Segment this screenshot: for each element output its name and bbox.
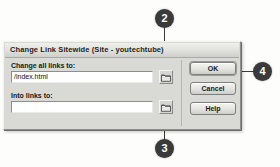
- into-links-label: Into links to:: [11, 92, 176, 99]
- callout-badge-4: 4: [253, 62, 272, 81]
- callout-badge-2: 2: [155, 9, 174, 28]
- change-all-links-input[interactable]: /index.html: [11, 71, 153, 83]
- change-all-links-label: Change all links to:: [11, 62, 176, 69]
- browse-folder-button-change-all-links[interactable]: [159, 70, 173, 84]
- button-column: OK Cancel Help: [190, 62, 236, 122]
- folder-icon: [161, 73, 171, 82]
- browse-folder-button-into-links[interactable]: [159, 100, 173, 114]
- scan-page-background: 2 3 4 Change Link Sitewide (Site - youte…: [0, 0, 280, 167]
- folder-icon: [161, 103, 171, 112]
- column-divider: [181, 60, 182, 126]
- change-all-links-row: /index.html: [11, 71, 176, 84]
- dialog-title: Change Link Sitewide (Site - youtechtube…: [10, 45, 164, 54]
- dialog-titlebar[interactable]: Change Link Sitewide (Site - youtechtube…: [5, 43, 239, 58]
- form-column: Change all links to: /index.html Into li…: [11, 62, 176, 122]
- ok-button[interactable]: OK: [190, 62, 236, 75]
- dialog-body: Change all links to: /index.html Into li…: [4, 58, 240, 129]
- callout-badge-3: 3: [155, 139, 174, 158]
- cancel-button[interactable]: Cancel: [190, 82, 236, 95]
- into-links-row: [11, 101, 176, 114]
- change-link-sitewide-dialog: Change Link Sitewide (Site - youtechtube…: [3, 41, 241, 130]
- into-links-input[interactable]: [11, 101, 153, 113]
- help-button[interactable]: Help: [190, 102, 236, 115]
